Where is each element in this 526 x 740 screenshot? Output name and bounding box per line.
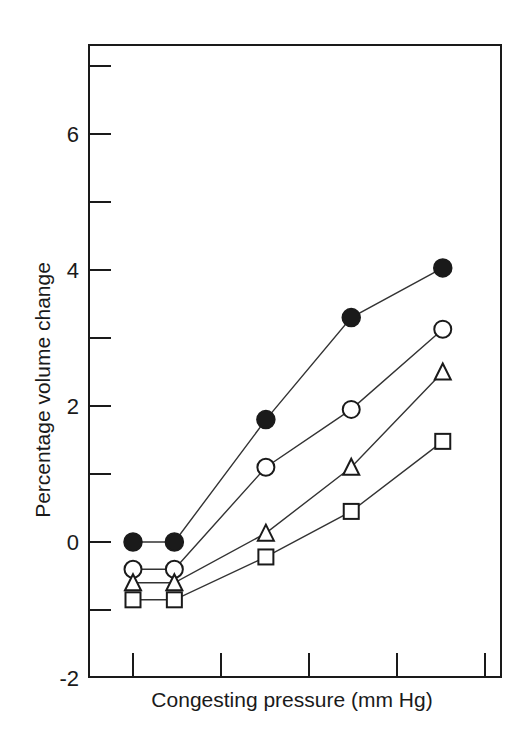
marker-open-triangle [258,525,274,541]
marker-open-square [435,434,450,449]
marker-open-square [126,592,141,607]
x-axis-ticks [133,653,485,677]
marker-filled-circle [257,411,275,429]
series-line [133,268,443,542]
marker-open-square [344,504,359,519]
marker-filled-circle [342,309,360,327]
marker-filled-circle [165,533,183,551]
marker-open-square [167,592,182,607]
series-line [133,329,443,569]
marker-open-circle [257,459,274,476]
marker-open-square [258,549,273,564]
marker-open-circle [434,321,451,338]
y-tick-label: 4 [67,258,79,283]
series-filled-circle [124,259,452,551]
y-axis-ticks: -20246 [59,66,111,691]
y-axis-label: Percentage volume change [31,262,54,518]
x-axis-label: Congesting pressure (mm Hg) [151,688,432,711]
y-tick-label: -2 [59,666,79,691]
marker-open-circle [343,401,360,418]
series-open-triangle [125,364,451,591]
chart-svg: -20246 Congesting pressure (mm Hg) Perce… [0,0,526,740]
data-series [124,259,452,607]
marker-open-triangle [435,364,451,380]
marker-filled-circle [124,533,142,551]
y-tick-label: 0 [67,530,79,555]
y-tick-label: 6 [67,122,79,147]
y-tick-label: 2 [67,394,79,419]
marker-filled-circle [434,259,452,277]
